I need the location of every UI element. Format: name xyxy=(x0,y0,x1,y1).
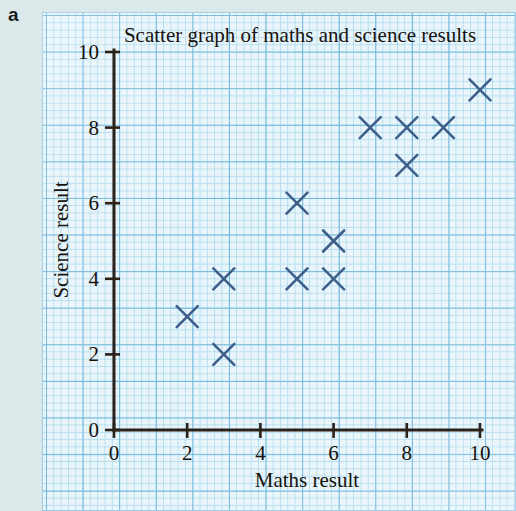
y-axis-tick-label: 8 xyxy=(89,116,100,140)
data-point-marker xyxy=(177,306,198,327)
y-axis-title: Science result xyxy=(49,181,73,298)
x-axis-tick-label: 2 xyxy=(182,441,193,465)
data-point-marker xyxy=(396,117,417,138)
x-axis-tick-label: 0 xyxy=(109,441,120,465)
data-point-marker xyxy=(323,231,344,252)
y-axis-tick-label: 2 xyxy=(89,342,100,366)
x-axis-tick-label: 10 xyxy=(470,441,491,465)
data-point-marker xyxy=(287,268,308,289)
x-axis-tick-label: 4 xyxy=(255,441,266,465)
y-axis-tick-label: 10 xyxy=(78,40,99,64)
data-point-marker xyxy=(287,193,308,214)
chart-ticks xyxy=(105,52,480,438)
x-axis-tick-label: 6 xyxy=(328,441,339,465)
x-axis-tick-label: 8 xyxy=(402,441,413,465)
scatter-chart: 02468100246810Scatter graph of maths and… xyxy=(0,0,516,511)
data-point-marker xyxy=(213,344,234,365)
y-axis-tick-label: 0 xyxy=(89,418,100,442)
y-axis-tick-label: 4 xyxy=(89,267,100,291)
data-point-marker xyxy=(213,268,234,289)
x-axis-title: Maths result xyxy=(255,468,360,492)
data-point-marker xyxy=(396,155,417,176)
data-point-marker xyxy=(360,117,381,138)
y-axis-tick-label: 6 xyxy=(89,191,100,215)
chart-axes xyxy=(114,50,482,430)
chart-data-markers xyxy=(177,79,491,365)
data-point-marker xyxy=(470,79,491,100)
chart-title: Scatter graph of maths and science resul… xyxy=(124,23,476,47)
data-point-marker xyxy=(433,117,454,138)
data-point-marker xyxy=(323,268,344,289)
